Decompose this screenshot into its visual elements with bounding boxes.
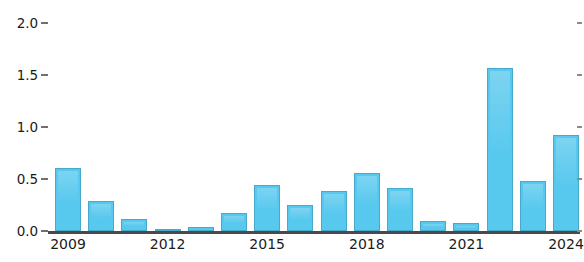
y-axis-tick-mark	[41, 126, 48, 128]
bar	[121, 219, 147, 231]
x-axis-tick-label: 2024	[548, 236, 584, 252]
bar	[487, 68, 513, 231]
y-axis-tick-mark	[41, 22, 48, 24]
bar	[55, 168, 81, 231]
x-axis-tick-label: 2015	[249, 236, 285, 252]
y-axis-tick-label: 2.0	[0, 15, 38, 31]
y-axis-tick-mark	[41, 74, 48, 76]
x-axis-tick-label: 2012	[150, 236, 186, 252]
right-edge-tick-mark	[577, 126, 582, 128]
x-axis-baseline	[48, 231, 580, 234]
right-edge-tick-mark	[577, 74, 582, 76]
x-axis-tick-label: 2009	[50, 236, 86, 252]
bar	[354, 173, 380, 231]
x-axis-tick-label: 2018	[349, 236, 385, 252]
bar	[321, 191, 347, 231]
y-axis-tick-mark	[41, 178, 48, 180]
bar	[553, 135, 579, 231]
bar	[453, 223, 479, 231]
bar	[387, 188, 413, 231]
x-axis-tick-label: 2021	[449, 236, 485, 252]
bar	[254, 185, 280, 231]
bar	[88, 201, 114, 231]
bar	[520, 181, 546, 231]
y-axis-tick-label: 1.0	[0, 119, 38, 135]
plot-area	[48, 10, 583, 232]
y-axis-tick-label: 0.0	[0, 223, 38, 239]
right-edge-tick-mark	[577, 178, 582, 180]
bar	[287, 205, 313, 231]
bar	[420, 221, 446, 231]
y-axis-tick-label: 0.5	[0, 171, 38, 187]
right-edge-tick-mark	[577, 230, 582, 232]
right-edge-tick-mark	[577, 22, 582, 24]
y-axis-tick-mark	[41, 230, 48, 232]
y-axis-tick-label: 1.5	[0, 67, 38, 83]
bar	[221, 213, 247, 231]
